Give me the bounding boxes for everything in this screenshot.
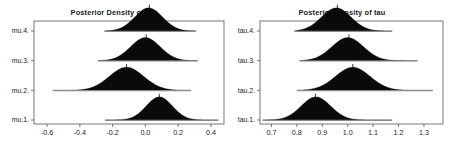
panel-mu: Posterior Density of mu -0.6-0.4-0.20.00…	[0, 0, 228, 143]
density-curve-mu1	[105, 97, 218, 120]
row-label-tau1: tau.1.	[238, 116, 255, 123]
x-axis-tick-label: -0.4	[74, 128, 86, 137]
x-axis-tick-label: 0.9	[317, 128, 327, 137]
density-curve-mu2	[53, 67, 191, 90]
density-curve-tau2	[297, 67, 433, 90]
x-axis-tick-label: 1.1	[368, 128, 378, 137]
x-axis-tick-label: 0.2	[173, 128, 183, 137]
plot-area-tau: 0.70.80.91.01.11.21.3tau.4.tau.3.tau.2.t…	[228, 0, 456, 143]
row-label-mu2: mu.2.	[12, 87, 29, 94]
x-axis-tick-label: 0.0	[140, 128, 150, 137]
row-label-tau2: tau.2.	[238, 87, 255, 94]
x-axis-tick-label: 1.2	[394, 128, 404, 137]
row-label-tau3: tau.3.	[238, 57, 255, 64]
density-curve-tau3	[299, 38, 417, 61]
row-label-mu4: mu.4.	[12, 27, 29, 34]
x-axis-tick-label: 1.0	[343, 128, 353, 137]
density-curve-mu4	[104, 8, 196, 31]
x-axis-tick-label: 1.3	[419, 128, 429, 137]
row-label-tau4: tau.4.	[238, 27, 255, 34]
x-axis-tick-label: 0.4	[206, 128, 216, 137]
x-axis-tick-label: 0.7	[266, 128, 276, 137]
x-axis-tick-label: 0.8	[292, 128, 302, 137]
panel-tau: Posterior Density of tau 0.70.80.91.01.1…	[228, 0, 456, 143]
x-axis-tick-label: -0.2	[106, 128, 118, 137]
density-curve-mu3	[98, 38, 198, 61]
row-label-mu3: mu.3.	[12, 57, 29, 64]
x-axis-tick-label: -0.6	[41, 128, 53, 137]
figure-root: Posterior Density of mu -0.6-0.4-0.20.00…	[0, 0, 456, 143]
density-curve-tau1	[263, 97, 393, 120]
row-label-mu1: mu.1.	[12, 116, 29, 123]
density-curve-tau4	[294, 8, 392, 31]
plot-area-mu: -0.6-0.4-0.20.00.20.4mu.4.mu.3.mu.2.mu.1…	[0, 0, 228, 143]
